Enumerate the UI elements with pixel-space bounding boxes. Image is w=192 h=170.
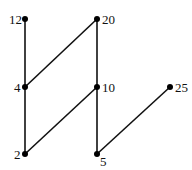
labels-group: 12204102525 bbox=[9, 12, 188, 169]
node-label-25: 25 bbox=[175, 80, 188, 95]
node-label-5: 5 bbox=[100, 154, 107, 169]
node-label-12: 12 bbox=[9, 12, 22, 27]
edge-4-20 bbox=[25, 19, 97, 87]
node-10 bbox=[94, 84, 100, 90]
node-4 bbox=[22, 84, 28, 90]
node-label-4: 4 bbox=[14, 80, 21, 95]
node-label-20: 20 bbox=[102, 12, 115, 27]
node-label-10: 10 bbox=[102, 80, 115, 95]
node-12 bbox=[22, 16, 28, 22]
edge-10-2 bbox=[25, 87, 97, 154]
node-2 bbox=[22, 151, 28, 157]
hasse-diagram: 12204102525 bbox=[0, 0, 192, 170]
node-20 bbox=[94, 16, 100, 22]
node-25 bbox=[167, 84, 173, 90]
edge-5-25 bbox=[97, 87, 170, 154]
node-label-2: 2 bbox=[14, 147, 21, 162]
